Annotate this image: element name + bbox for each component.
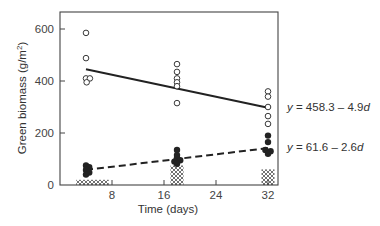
y-axis-title: Green biomass (g/m2) (15, 42, 28, 155)
y-tick-label: 600 (35, 23, 54, 35)
y-tick-label: 0 (48, 179, 54, 191)
solid-line-equation: y = 458.3 – 4.9d (286, 101, 370, 113)
x-tick-label: 32 (262, 189, 275, 201)
filled-circle-point (174, 160, 180, 166)
dashed-line-equation: y = 61.6 – 2.6d (286, 141, 364, 153)
filled-circle-point (265, 139, 271, 145)
biomass-chart: 0200400600 8162432 Green biomass (g/m2) … (0, 0, 380, 226)
x-axis: 8162432 (109, 180, 275, 201)
open-circle-point (174, 83, 180, 89)
filled-circle-point (83, 171, 89, 177)
filled-circle-point (265, 151, 271, 157)
open-circle-point (265, 94, 271, 100)
dead-biomass-hatches (76, 166, 274, 186)
crosshatch-bar (171, 166, 184, 186)
y-tick-label: 400 (35, 75, 54, 87)
crosshatch-bar (262, 169, 275, 185)
x-tick-label: 8 (109, 189, 115, 201)
open-circle-point (83, 30, 89, 36)
x-axis-title: Time (days) (138, 203, 198, 215)
open-circle-point (84, 80, 90, 86)
open-circle-point (174, 69, 180, 75)
crosshatch-bar (76, 180, 109, 185)
open-circle-point (265, 121, 271, 127)
open-circle-point (83, 55, 89, 61)
open-circle-point (174, 61, 180, 67)
x-tick-label: 24 (210, 189, 223, 201)
open-circle-points (83, 30, 271, 127)
x-tick-label: 16 (158, 189, 171, 201)
open-circle-point (265, 104, 271, 110)
open-circle-point (174, 100, 180, 106)
y-tick-label: 200 (35, 127, 54, 139)
filled-circle-point (265, 132, 271, 138)
open-circle-point (265, 113, 271, 119)
